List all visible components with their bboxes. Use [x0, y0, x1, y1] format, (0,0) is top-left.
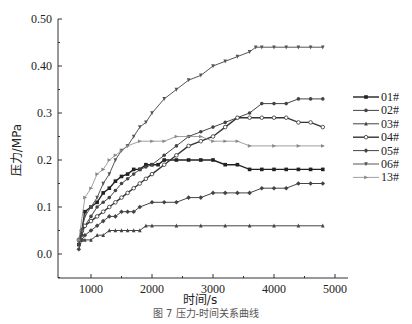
data-point-marker: [272, 144, 276, 148]
data-point-marker: [297, 97, 301, 101]
data-point-marker: [297, 121, 301, 125]
data-point-marker: [138, 168, 142, 172]
data-point-marker: [120, 182, 124, 186]
data-point-marker: [77, 247, 82, 252]
legend-label: 05#: [381, 144, 399, 158]
legend-item-02: 02#: [353, 103, 399, 117]
data-point-marker: [364, 109, 368, 113]
data-point-marker: [144, 177, 148, 181]
data-point-marker: [199, 195, 204, 200]
data-point-marker: [120, 196, 124, 200]
data-point-marker: [174, 200, 179, 205]
data-point-marker: [101, 168, 105, 172]
data-point-marker: [272, 168, 276, 172]
data-point-marker: [364, 176, 368, 180]
data-point-marker: [162, 200, 167, 205]
data-point-marker: [175, 154, 179, 158]
x-tick-label: 2000: [140, 282, 164, 296]
data-point-marker: [272, 116, 276, 120]
data-point-marker: [175, 135, 179, 139]
data-point-marker: [114, 158, 118, 162]
data-point-marker: [248, 116, 252, 120]
data-point-marker: [223, 191, 228, 196]
data-point-marker: [260, 102, 264, 106]
data-point-marker: [89, 219, 93, 223]
data-point-marker: [95, 205, 99, 209]
x-tick-label: 5000: [323, 282, 347, 296]
legend-item-03: 03#: [353, 117, 399, 131]
data-point-marker: [211, 191, 216, 196]
series-04: [77, 116, 325, 242]
data-point-marker: [247, 191, 252, 196]
data-point-marker: [89, 215, 93, 219]
y-tick-label: 0.2: [37, 153, 52, 167]
data-point-marker: [132, 186, 136, 190]
data-point-marker: [150, 163, 154, 167]
data-point-marker: [223, 163, 227, 167]
data-point-marker: [125, 209, 130, 214]
data-series: [77, 45, 326, 251]
data-point-marker: [144, 165, 148, 169]
x-tick-label: 4000: [262, 282, 286, 296]
data-point-marker: [126, 177, 130, 181]
data-point-marker: [364, 148, 369, 153]
data-point-marker: [114, 179, 118, 183]
data-point-marker: [211, 125, 215, 129]
data-point-marker: [101, 201, 105, 205]
legend-label: 03#: [381, 117, 399, 131]
y-axis-title: 压力/MPa: [10, 124, 24, 176]
data-point-marker: [236, 163, 240, 167]
series-line: [79, 99, 323, 245]
data-point-marker: [260, 116, 264, 120]
legend: 01#02#03#04#05#06#13#: [353, 90, 399, 184]
data-point-marker: [199, 139, 203, 143]
legend-item-13: 13#: [353, 170, 399, 184]
data-point-marker: [248, 168, 252, 172]
data-point-marker: [223, 121, 227, 125]
data-point-marker: [364, 135, 368, 139]
data-point-marker: [308, 181, 313, 186]
data-point-marker: [175, 158, 179, 162]
data-point-marker: [309, 97, 313, 101]
data-point-marker: [321, 181, 326, 186]
data-point-marker: [272, 102, 276, 106]
legend-item-06: 06#: [353, 157, 399, 171]
plot-area: 0.00.10.20.30.400.50 1000200030004000500…: [31, 12, 348, 296]
data-point-marker: [321, 144, 325, 148]
y-ticks: 0.00.10.20.30.400.50: [31, 12, 62, 278]
data-point-marker: [236, 139, 240, 143]
legend-item-04: 04#: [353, 130, 399, 144]
data-point-marker: [187, 144, 191, 148]
series-03: [77, 224, 325, 242]
data-point-marker: [114, 189, 118, 193]
data-point-marker: [199, 135, 203, 139]
data-point-marker: [126, 172, 130, 176]
data-point-marker: [108, 205, 112, 209]
series-06: [77, 45, 325, 242]
data-point-marker: [108, 186, 112, 190]
data-point-marker: [321, 168, 325, 172]
data-point-marker: [296, 181, 301, 186]
data-point-marker: [284, 116, 288, 120]
data-point-marker: [162, 158, 166, 162]
data-point-marker: [284, 186, 289, 191]
data-point-marker: [126, 191, 130, 195]
data-point-marker: [364, 95, 368, 99]
legend-label: 02#: [381, 103, 399, 117]
figure-caption: 图 7 压力-时间关系曲线: [0, 305, 412, 320]
data-point-marker: [211, 135, 215, 139]
x-tick-label: 1000: [79, 282, 103, 296]
data-point-marker: [150, 139, 154, 143]
data-point-marker: [162, 163, 166, 167]
data-point-marker: [321, 125, 325, 129]
data-point-marker: [260, 186, 265, 191]
data-point-marker: [132, 168, 136, 172]
data-point-marker: [150, 200, 155, 205]
data-point-marker: [248, 111, 252, 115]
data-point-marker: [199, 158, 203, 162]
legend-label: 01#: [381, 90, 399, 104]
data-point-marker: [175, 144, 179, 148]
data-point-marker: [138, 139, 142, 143]
y-tick-label: 0.3: [37, 106, 52, 120]
data-point-marker: [260, 168, 264, 172]
